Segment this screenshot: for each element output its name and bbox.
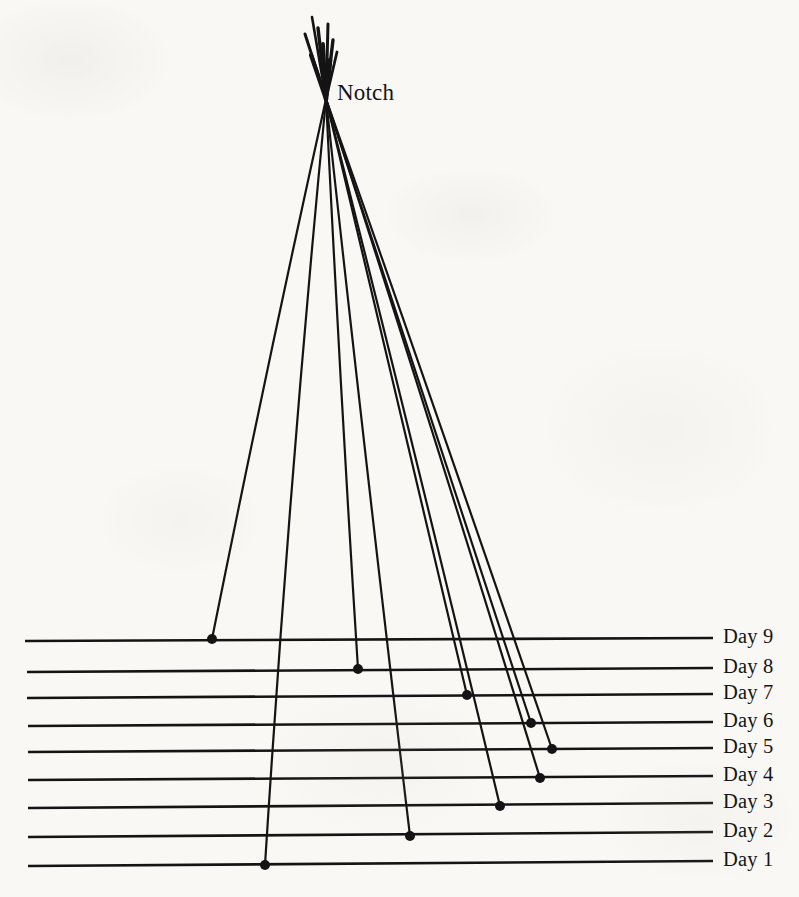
notch-stub-strokes (305, 17, 337, 99)
day-label-day-4: Day 4 (723, 763, 774, 786)
baseline-day-2 (28, 832, 713, 837)
baseline-day-3 (28, 803, 713, 808)
ray-day-5 (326, 99, 552, 749)
ray-day-9 (212, 99, 326, 639)
endpoint-dot-day-1 (260, 860, 270, 870)
endpoint-dot-day-2 (405, 831, 415, 841)
endpoint-dot-day-8 (353, 664, 363, 674)
endpoint-dot-day-6 (526, 718, 536, 728)
baseline-day-8 (27, 668, 713, 672)
day-label-day-5: Day 5 (723, 735, 774, 758)
baseline-day-1 (28, 861, 713, 866)
baseline-day-7 (27, 694, 713, 698)
endpoint-dot-day-9 (207, 634, 217, 644)
endpoint-dot-day-3 (495, 801, 505, 811)
day-label-day-9: Day 9 (723, 625, 774, 648)
day-label-day-7: Day 7 (723, 681, 774, 704)
baseline-day-5 (28, 748, 713, 752)
day-label-day-3: Day 3 (723, 790, 774, 813)
baseline-day-9 (25, 638, 713, 641)
endpoint-dot-day-7 (462, 690, 472, 700)
ray-day-7 (326, 99, 467, 695)
diagram-canvas (0, 0, 799, 897)
baseline-day-4 (28, 776, 713, 780)
day-baselines (25, 638, 713, 866)
endpoint-dot-day-5 (547, 744, 557, 754)
day-label-day-6: Day 6 (723, 709, 774, 732)
day-label-day-1: Day 1 (723, 848, 774, 871)
day-label-day-2: Day 2 (723, 819, 774, 842)
ray-day-4 (326, 99, 540, 778)
baseline-day-6 (28, 722, 713, 726)
ray-day-3 (326, 99, 500, 806)
day-label-day-8: Day 8 (723, 655, 774, 678)
endpoint-dot-day-4 (535, 773, 545, 783)
notch-label: Notch (337, 80, 394, 106)
notch-diagram-figure: Notch Day 9Day 8Day 7Day 6Day 5Day 4Day … (0, 0, 799, 897)
